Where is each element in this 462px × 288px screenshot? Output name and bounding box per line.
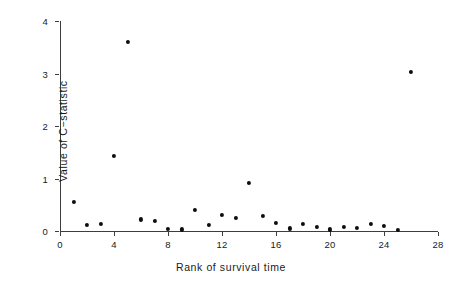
x-tick-mark xyxy=(60,232,61,236)
data-point xyxy=(98,222,102,226)
x-tick-label: 0 xyxy=(57,239,62,250)
y-tick-label: 1 xyxy=(0,173,48,184)
x-tick-mark xyxy=(114,232,115,236)
data-point xyxy=(287,226,291,230)
x-tick-label: 8 xyxy=(165,239,170,250)
x-tick-label: 4 xyxy=(111,239,116,250)
y-tick-label: 0 xyxy=(0,226,48,237)
x-tick-label: 20 xyxy=(325,239,336,250)
x-tick-mark xyxy=(330,232,331,236)
data-point xyxy=(233,216,237,220)
x-tick-mark xyxy=(222,232,223,236)
data-point xyxy=(71,200,75,204)
x-tick-label: 28 xyxy=(433,239,444,250)
x-axis-title: Rank of survival time xyxy=(0,261,462,273)
data-point xyxy=(314,225,318,229)
data-point xyxy=(112,154,116,158)
x-tick-mark xyxy=(438,232,439,236)
data-point xyxy=(193,208,197,212)
y-tick-label: 2 xyxy=(0,121,48,132)
data-point xyxy=(409,70,413,74)
y-tick-label: 3 xyxy=(0,68,48,79)
data-point xyxy=(247,181,251,185)
plot-data-area xyxy=(60,21,438,231)
data-point xyxy=(152,218,156,222)
x-tick-label: 16 xyxy=(271,239,282,250)
data-point xyxy=(220,213,224,217)
x-tick-label: 12 xyxy=(217,239,228,250)
data-point xyxy=(166,227,170,231)
data-point xyxy=(139,217,143,221)
data-point xyxy=(341,225,345,229)
data-point xyxy=(355,226,359,230)
data-point xyxy=(85,223,89,227)
data-point xyxy=(382,224,386,228)
data-point xyxy=(274,221,278,225)
x-tick-mark xyxy=(276,232,277,236)
x-tick-mark xyxy=(384,232,385,236)
data-point xyxy=(179,227,183,231)
x-tick-label: 24 xyxy=(379,239,390,250)
data-point xyxy=(260,214,264,218)
data-point xyxy=(125,40,129,44)
x-tick-mark xyxy=(168,232,169,236)
x-axis-line xyxy=(60,231,438,232)
scatter-plot-figure: 01234 0481216202428 Value of C−statistic… xyxy=(0,0,462,288)
data-point xyxy=(301,222,305,226)
data-point xyxy=(368,222,372,226)
y-tick-mark xyxy=(55,21,59,22)
y-tick-mark xyxy=(55,231,59,232)
data-point xyxy=(206,223,210,227)
y-axis-title: Value of C−statistic xyxy=(57,31,69,231)
data-point xyxy=(328,227,332,231)
y-tick-label: 4 xyxy=(0,16,48,27)
